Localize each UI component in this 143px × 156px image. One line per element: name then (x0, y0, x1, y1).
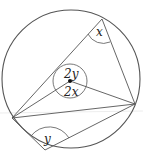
chord-c-a (12, 19, 102, 118)
chord-d-b (45, 104, 135, 150)
label-x: x (96, 25, 103, 39)
label-2x: 2x (63, 85, 79, 99)
radius-o-b (70, 81, 135, 104)
label-y: y (43, 132, 51, 146)
chord-a-b (102, 19, 135, 104)
circle-theorem-diagram: x y 2y 2x (0, 0, 143, 156)
label-2y: 2y (63, 67, 79, 81)
chord-c-d (12, 118, 45, 150)
